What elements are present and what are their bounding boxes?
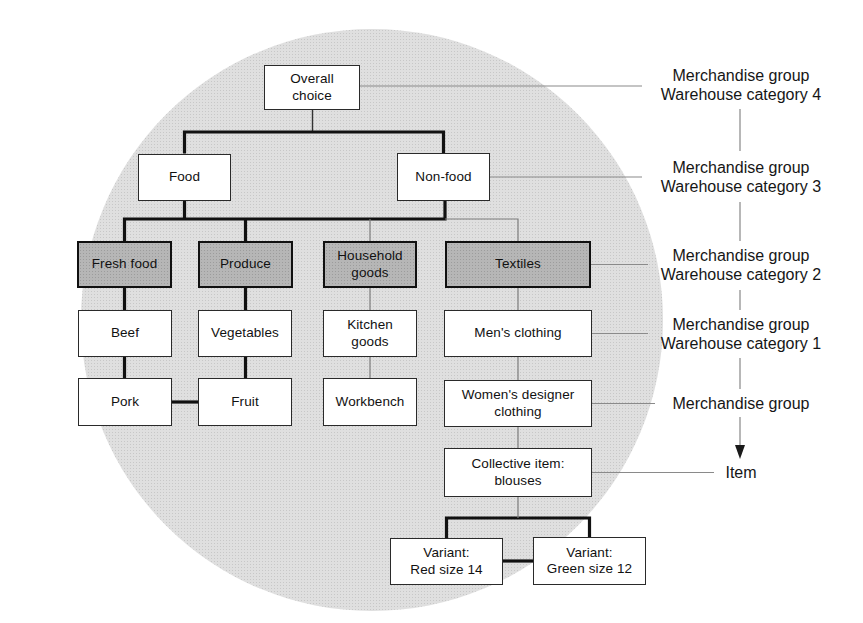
- flow-arrowhead: [735, 445, 745, 459]
- node-variant-green-size-12: Variant: Green size 12: [533, 537, 646, 585]
- level-label-warehouse-category-1: Merchandise group Warehouse category 1: [622, 315, 860, 353]
- node-fruit: Fruit: [198, 378, 292, 426]
- level-label-line: Warehouse category 1: [622, 334, 860, 353]
- node-food: Food: [138, 154, 231, 201]
- level-label-warehouse-category-2: Merchandise group Warehouse category 2: [622, 246, 860, 284]
- figure-merchandise-hierarchy: Overall choice Food Non-food Fresh food …: [0, 0, 863, 623]
- node-workbench: Workbench: [323, 378, 417, 426]
- node-mens-clothing: Men's clothing: [444, 310, 592, 357]
- level-label-line: Merchandise group: [622, 66, 860, 85]
- node-fresh-food: Fresh food: [77, 241, 172, 288]
- node-vegetables: Vegetables: [198, 310, 292, 357]
- level-label-line: Merchandise group: [622, 158, 860, 177]
- node-collective-item-blouses: Collective item: blouses: [444, 448, 592, 497]
- level-label-line: Warehouse category 3: [622, 177, 860, 196]
- level-label-line: Merchandise group: [622, 246, 860, 265]
- level-label-merchandise-group: Merchandise group: [622, 394, 860, 413]
- level-label-line: Item: [622, 463, 860, 482]
- node-variant-red-size-14: Variant: Red size 14: [390, 538, 503, 585]
- level-label-item: Item: [622, 463, 860, 482]
- node-kitchen-goods: Kitchen goods: [323, 310, 417, 357]
- level-label-line: Warehouse category 4: [622, 85, 860, 104]
- node-household-goods: Household goods: [323, 241, 417, 288]
- level-label-warehouse-category-3: Merchandise group Warehouse category 3: [622, 158, 860, 196]
- node-textiles: Textiles: [445, 241, 591, 288]
- node-non-food: Non-food: [397, 153, 490, 201]
- level-label-line: Warehouse category 2: [622, 265, 860, 284]
- level-label-warehouse-category-4: Merchandise group Warehouse category 4: [622, 66, 860, 104]
- node-pork: Pork: [78, 378, 172, 426]
- node-produce: Produce: [198, 241, 293, 288]
- node-overall-choice: Overall choice: [264, 65, 360, 110]
- level-label-line: Merchandise group: [622, 394, 860, 413]
- node-womens-designer-clothing: Women's designer clothing: [444, 380, 592, 427]
- level-label-line: Merchandise group: [622, 315, 860, 334]
- node-beef: Beef: [78, 310, 172, 357]
